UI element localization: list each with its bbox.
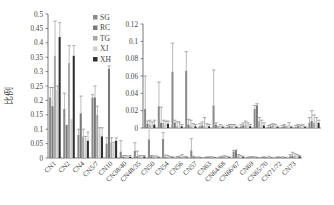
inset-bar-sg <box>267 127 269 128</box>
inset-bar-xj <box>247 125 249 128</box>
legend-label: RC <box>100 23 110 32</box>
bar-tg <box>153 157 155 158</box>
bar-xj <box>183 157 185 158</box>
inset-bar-sg <box>308 123 310 128</box>
inset-bar-xh <box>167 124 169 128</box>
inset-bar-xh <box>249 126 251 128</box>
inset-bar-tg <box>217 127 219 128</box>
inset-y-tick-label: 0.04 <box>125 90 138 98</box>
bar-tg <box>167 157 169 158</box>
inset-bar-rc <box>270 126 272 128</box>
inset-bar-xh <box>290 127 292 128</box>
bar-xj <box>282 157 284 158</box>
bar-rc <box>263 157 265 158</box>
inset-bar-xh <box>235 127 237 128</box>
bar-rc <box>277 157 279 158</box>
inset-bar-xh <box>318 123 320 128</box>
bar-tg <box>251 157 253 158</box>
bar-rc <box>80 113 82 158</box>
inset-bar-rc <box>311 121 313 128</box>
inset-plot-area: 00.020.040.060.080.10.12 <box>113 18 323 133</box>
inset-bar-xj <box>165 125 167 128</box>
inset-bar-sg <box>281 127 283 128</box>
bar-sg <box>77 135 79 158</box>
bar-xj <box>56 90 58 158</box>
inset-bar-sg <box>199 126 201 128</box>
legend-swatch-rc <box>93 26 98 31</box>
bar-sg <box>190 151 192 158</box>
y-tick-label: 0.15 <box>30 111 43 119</box>
bar-xh <box>186 157 188 158</box>
inset-y-tick-label: 0.1 <box>129 38 138 46</box>
y-tick-label: 0.45 <box>30 25 43 33</box>
bar-tg <box>209 157 211 158</box>
inset-bar-xh <box>304 127 306 128</box>
bar-sg <box>176 157 178 158</box>
bar-rc <box>108 69 110 158</box>
bar-sg <box>63 109 65 158</box>
bar-xj <box>211 157 213 158</box>
x-tick-label: CN1 <box>43 159 58 174</box>
bar-xh <box>143 157 145 158</box>
bar-tg <box>280 157 282 158</box>
inset-bar-tg <box>272 125 274 128</box>
bar-xj <box>197 157 199 158</box>
bar-tg <box>82 136 84 158</box>
bar-xh <box>59 37 61 158</box>
bar-xj <box>70 119 72 158</box>
bar-rc <box>235 151 237 158</box>
x-tick-label: CN2 <box>57 159 72 174</box>
inset-bar-rc <box>187 125 189 128</box>
inset-bar-rc <box>256 105 258 128</box>
bar-rc <box>207 157 209 158</box>
bar-xj <box>254 157 256 158</box>
x-tick-label: CN5/7 <box>81 159 100 178</box>
bar-tg <box>96 115 98 158</box>
bar-rc <box>122 157 124 158</box>
inset-bar-tg <box>313 123 315 128</box>
inset-bar-sg <box>226 127 228 128</box>
inset-bar-xj <box>151 125 153 128</box>
bar-tg <box>181 157 183 158</box>
x-tick-label: CN57 <box>182 159 200 177</box>
legend-label: XJ <box>100 44 108 53</box>
inset-bar-tg <box>176 126 178 128</box>
bar-xj <box>84 139 86 158</box>
inset-bar-xh <box>153 125 155 128</box>
y-tick-label: 0.4 <box>34 39 43 47</box>
bar-xj <box>141 157 143 158</box>
bar-rc <box>249 157 251 158</box>
bar-sg <box>233 152 235 158</box>
bar-rc <box>178 157 180 158</box>
bar-rc <box>221 157 223 158</box>
inset-bar-sg <box>254 109 256 128</box>
bar-sg <box>106 144 108 158</box>
inset-bar-xj <box>178 125 180 128</box>
bar-xj <box>296 156 298 158</box>
inset-y-tick-label: 0.08 <box>125 55 138 63</box>
inset-y-tick-label: 0.02 <box>125 107 138 115</box>
legend-label: XH <box>100 55 111 64</box>
bar-xh <box>101 136 103 158</box>
bar-sg <box>134 151 136 158</box>
bar-tg <box>294 156 296 158</box>
inset-bar-tg <box>190 126 192 128</box>
y-tick-label: 0.5 <box>34 11 43 19</box>
bar-xj <box>226 157 228 158</box>
inset-y-tick-label: 0.06 <box>125 73 138 81</box>
y-tick-label: 0.1 <box>34 126 43 134</box>
y-tick-label: 0 <box>39 155 43 163</box>
inset-bar-sg <box>213 105 215 128</box>
inset-bar-tg <box>162 123 164 128</box>
inset-bar-rc <box>146 124 148 128</box>
legend-label: SG <box>100 13 110 22</box>
inset-bar-rc <box>160 123 162 128</box>
bar-xh <box>87 141 89 158</box>
inset-bar-tg <box>286 127 288 128</box>
bar-rc <box>66 125 68 158</box>
bar-xh <box>129 157 131 158</box>
bar-xj <box>127 157 129 158</box>
bar-sg <box>289 156 291 158</box>
bar-xj <box>268 157 270 158</box>
inset-bar-sg <box>171 72 173 128</box>
